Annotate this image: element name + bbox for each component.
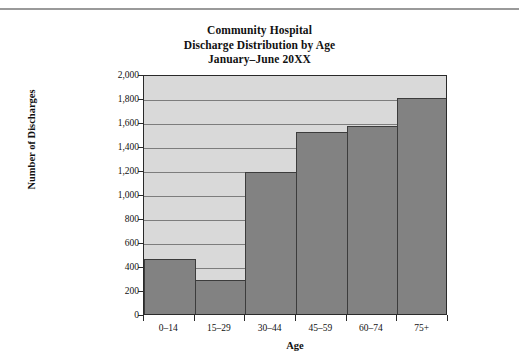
x-axis-tick-label: 0–14 <box>143 323 194 333</box>
chart-title-line-3: January–June 20XX <box>0 52 519 67</box>
y-axis-tick-label: 1,800 <box>97 94 139 104</box>
x-axis-tick-label: 60–74 <box>346 323 397 333</box>
bar <box>397 98 447 314</box>
y-axis-tick-mark <box>138 267 143 268</box>
x-axis-tick-mark <box>194 315 195 321</box>
y-axis-tick-label: 600 <box>97 238 139 248</box>
y-axis-tick-label: 800 <box>97 214 139 224</box>
y-axis-tick-mark <box>138 75 143 76</box>
y-axis-tick-label: 1,600 <box>97 118 139 128</box>
chart-title: Community Hospital Discharge Distributio… <box>0 23 519 67</box>
plot-area <box>143 75 447 315</box>
y-axis-tick-mark <box>138 99 143 100</box>
x-axis-tick-mark <box>143 315 144 321</box>
x-axis-tick-mark <box>346 315 347 321</box>
y-axis-tick-label: 0 <box>97 310 139 320</box>
x-axis-tick-mark <box>244 315 245 321</box>
y-axis-tick-mark <box>138 291 143 292</box>
x-axis-tick-label: 30–44 <box>244 323 295 333</box>
x-axis-tick-label: 75+ <box>396 323 447 333</box>
y-axis-tick-mark <box>138 219 143 220</box>
x-axis-tick-mark <box>396 315 397 321</box>
y-axis-tick-label: 400 <box>97 262 139 272</box>
y-axis-tick-mark <box>138 195 143 196</box>
bar <box>144 259 196 314</box>
y-axis-tick-label: 1,200 <box>97 166 139 176</box>
bar <box>195 280 247 314</box>
y-axis-tick-mark <box>138 123 143 124</box>
y-axis-tick-mark <box>138 315 143 316</box>
x-axis-title: Age <box>143 340 447 351</box>
bar <box>296 132 348 314</box>
x-axis-tick-label: 45–59 <box>295 323 346 333</box>
y-axis-tick-label: 2,000 <box>97 70 139 80</box>
bar <box>347 126 399 314</box>
y-axis-title: Number of Discharges <box>26 60 37 220</box>
y-axis-tick-mark <box>138 171 143 172</box>
y-axis-tick-labels: 02004006008001,0001,2001,4001,6001,8002,… <box>92 75 139 315</box>
x-axis-tick-mark <box>447 315 448 321</box>
y-axis-tick-mark <box>138 147 143 148</box>
y-axis-tick-label: 1,400 <box>97 142 139 152</box>
chart-figure: Community Hospital Discharge Distributio… <box>0 10 519 364</box>
bar <box>245 172 297 314</box>
y-axis-tick-mark <box>138 243 143 244</box>
x-axis-tick-mark <box>295 315 296 321</box>
y-axis-tick-label: 200 <box>97 286 139 296</box>
chart-title-line-2: Discharge Distribution by Age <box>0 38 519 53</box>
x-axis-tick-label: 15–29 <box>194 323 245 333</box>
chart-title-line-1: Community Hospital <box>0 23 519 38</box>
y-axis-tick-label: 1,000 <box>97 190 139 200</box>
